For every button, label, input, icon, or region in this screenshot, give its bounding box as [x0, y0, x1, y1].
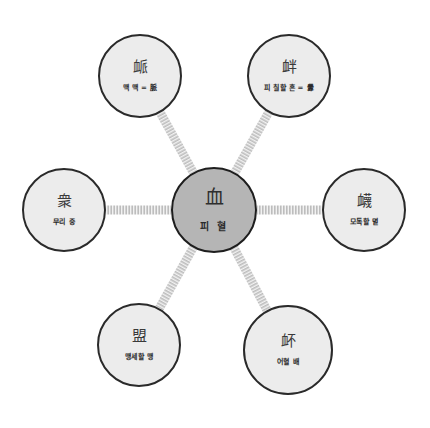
center-hanja: 血 — [205, 188, 224, 207]
node-hanja: 衆 — [57, 194, 72, 209]
node-bottom-right: 衃 어혈 배 — [243, 305, 333, 395]
node-left: 衆 무리 중 — [22, 168, 106, 252]
node-hanja: 盟 — [132, 329, 147, 344]
node-gloss: 어혈 배 — [277, 356, 299, 366]
connector-top-left — [156, 111, 197, 175]
node-bottom-left: 盟 맹세할 맹 — [97, 303, 181, 387]
center-gloss: 피 혈 — [200, 218, 227, 233]
node-gloss: 모독할 멸 — [350, 216, 378, 226]
radial-diagram: 血 피 혈 衇 맥 맥 = 脈 衅 피 칠할 흔 = 釁 衆 무리 중 衊 모독… — [0, 0, 430, 428]
connector-bottom-left — [155, 245, 197, 310]
connector-left — [106, 206, 171, 215]
node-gloss: 피 칠할 흔 = 釁 — [264, 82, 314, 92]
node-right: 衊 모독할 멸 — [322, 168, 406, 252]
node-gloss: 맹세할 맹 — [125, 351, 153, 361]
node-gloss: 무리 중 — [53, 216, 75, 226]
node-top-left: 衇 맥 맥 = 脈 — [98, 34, 182, 118]
node-hanja: 衃 — [281, 334, 296, 349]
connector-top-right — [231, 110, 272, 174]
node-hanja: 衅 — [282, 60, 297, 75]
center-node-blood: 血 피 혈 — [171, 167, 257, 253]
node-top-right: 衅 피 칠할 흔 = 釁 — [247, 34, 331, 118]
node-hanja: 衇 — [133, 60, 148, 75]
node-gloss: 맥 맥 = 脈 — [123, 82, 157, 92]
node-hanja: 衊 — [357, 194, 372, 209]
connector-right — [257, 206, 322, 215]
connector-bottom-right — [230, 246, 271, 312]
